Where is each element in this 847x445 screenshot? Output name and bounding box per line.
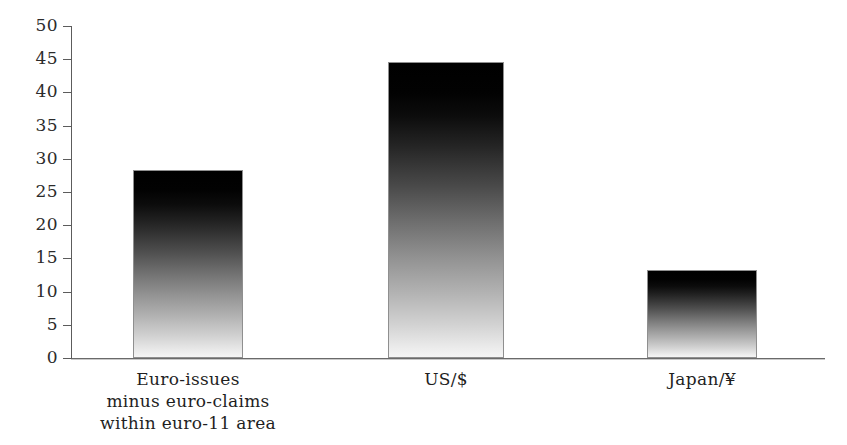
y-tick-mark	[63, 358, 72, 359]
y-tick-label-wrap: 40	[12, 83, 58, 100]
y-tick-label: 30	[18, 150, 58, 167]
x-axis-label: Japan/¥	[552, 368, 847, 390]
y-tick-label-wrap: 35	[12, 117, 58, 134]
y-tick-label: 45	[18, 50, 58, 67]
x-axis-label-line: within euro-11 area	[38, 412, 338, 434]
x-axis-label: Euro-issuesminus euro-claimswithin euro-…	[38, 368, 338, 434]
y-tick-label: 0	[18, 349, 58, 366]
y-tick-label-wrap: 5	[12, 316, 58, 333]
x-axis-label-line: Japan/¥	[552, 368, 847, 390]
bar	[388, 62, 504, 358]
y-tick-label-wrap: 10	[12, 283, 58, 300]
y-tick-label-wrap: 25	[12, 183, 58, 200]
y-tick-label: 50	[18, 17, 58, 34]
y-tick-mark	[63, 292, 72, 293]
y-tick-label-wrap: 30	[12, 150, 58, 167]
bar-chart: 05101520253035404550 Euro-issuesminus eu…	[0, 0, 847, 445]
y-tick-mark	[63, 258, 72, 259]
x-axis-label-line: US/$	[296, 368, 596, 390]
y-tick-mark	[63, 225, 72, 226]
y-tick-label: 15	[18, 249, 58, 266]
x-axis-label-line: minus euro-claims	[38, 390, 338, 412]
y-tick-mark	[63, 59, 72, 60]
y-tick-label-wrap: 15	[12, 249, 58, 266]
y-tick-label: 35	[18, 117, 58, 134]
bar	[133, 170, 243, 358]
y-tick-label-wrap: 0	[12, 349, 58, 366]
y-tick-label-wrap: 50	[12, 17, 58, 34]
y-tick-label-wrap: 45	[12, 50, 58, 67]
y-tick-mark	[63, 325, 72, 326]
plot-area: 05101520253035404550 Euro-issuesminus eu…	[0, 0, 847, 445]
y-tick-mark	[63, 26, 72, 27]
y-tick-label-wrap: 20	[12, 216, 58, 233]
y-tick-mark	[63, 92, 72, 93]
bar	[647, 270, 757, 358]
y-tick-mark	[63, 126, 72, 127]
y-tick-label: 10	[18, 283, 58, 300]
y-tick-mark	[63, 159, 72, 160]
x-axis-label-line: Euro-issues	[38, 368, 338, 390]
y-tick-label: 25	[18, 183, 58, 200]
y-tick-label: 5	[18, 316, 58, 333]
y-tick-mark	[63, 192, 72, 193]
x-axis-label: US/$	[296, 368, 596, 390]
y-tick-label: 20	[18, 216, 58, 233]
x-axis-line	[71, 358, 825, 359]
y-tick-label: 40	[18, 83, 58, 100]
